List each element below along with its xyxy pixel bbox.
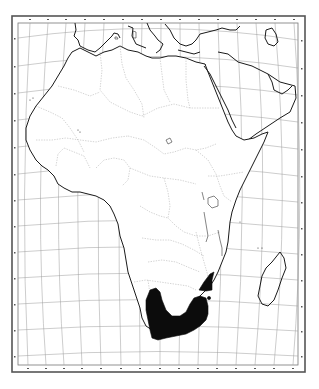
madagascar-coastline <box>258 252 286 306</box>
map-canvas <box>0 0 319 389</box>
outlier-range-dot <box>207 296 210 299</box>
africa-distribution-map <box>0 0 319 389</box>
africa-coastline <box>26 46 268 330</box>
europe-coastline <box>74 23 240 54</box>
